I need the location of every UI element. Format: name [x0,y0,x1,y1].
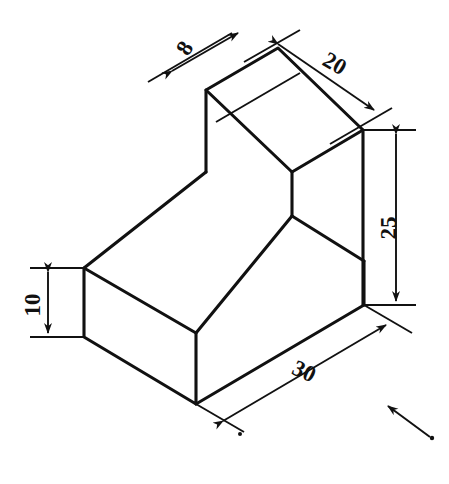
drawing-canvas: 8 20 25 10 30 [0,0,449,484]
dim-label-25: 25 [376,217,401,240]
isometric-drawing: 8 20 25 10 30 [0,0,449,484]
ext-line-30-left [196,404,244,432]
ext-line-30-right [364,305,412,333]
dim-label-8: 8 [171,37,198,60]
dim-label-30: 30 [288,355,319,387]
dimension-30: 30 [196,305,412,436]
dimension-10: 10 [20,268,84,337]
dim-tick-30 [238,432,242,436]
view-direction-arrow [388,406,434,440]
bracket-solid [84,48,364,404]
view-arrow-shaft [388,406,430,437]
view-arrow-tail-dot [430,436,434,440]
dimension-25: 25 [363,130,416,305]
dim-label-10: 10 [20,294,45,317]
